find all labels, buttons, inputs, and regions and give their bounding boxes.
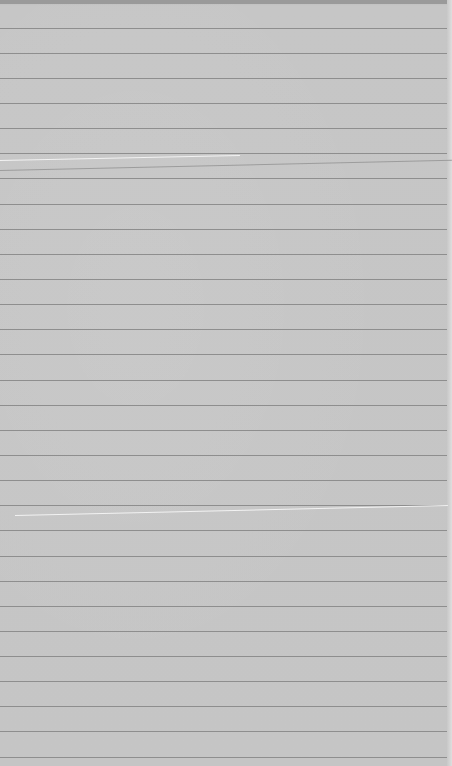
ruled-line — [0, 178, 447, 179]
ruled-line — [0, 204, 447, 205]
ruled-line — [0, 53, 447, 54]
ruled-line — [0, 706, 447, 707]
ruled-line — [0, 28, 447, 29]
ruled-line — [0, 329, 447, 330]
paper-top-edge — [0, 0, 452, 4]
paper-right-edge — [447, 0, 452, 766]
ruled-line — [0, 480, 447, 481]
paper-crease — [15, 505, 448, 516]
ruled-line — [0, 757, 447, 758]
ruled-line — [0, 405, 447, 406]
ruled-line — [0, 455, 447, 456]
ruled-line — [0, 304, 447, 305]
ruled-line — [0, 556, 447, 557]
ruled-line — [0, 631, 447, 632]
ruled-line — [0, 681, 447, 682]
ruled-line — [0, 103, 447, 104]
ruled-line — [0, 354, 447, 355]
ruled-line — [0, 279, 447, 280]
paper-crease — [0, 155, 240, 161]
ruled-line — [0, 656, 447, 657]
ruled-line — [0, 731, 447, 732]
faint-slanted-line — [0, 160, 452, 171]
ruled-line — [0, 229, 447, 230]
ruled-line — [0, 153, 447, 154]
lined-paper — [0, 0, 452, 766]
ruled-line — [0, 606, 447, 607]
ruled-line — [0, 380, 447, 381]
ruled-line — [0, 128, 447, 129]
ruled-line — [0, 581, 447, 582]
ruled-line — [0, 254, 447, 255]
ruled-line — [0, 78, 447, 79]
ruled-line — [0, 530, 447, 531]
ruled-line — [0, 430, 447, 431]
